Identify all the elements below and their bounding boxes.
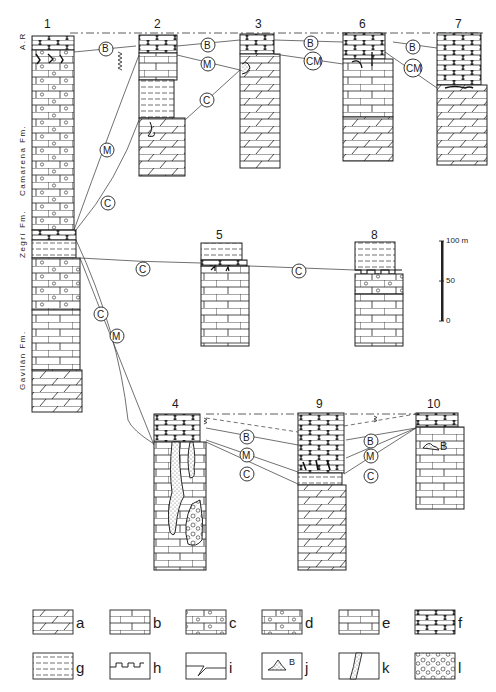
- marker-c: C: [97, 309, 104, 321]
- column-2: [139, 35, 185, 176]
- legend-j-inset-b: B: [289, 656, 295, 668]
- column-9: [298, 413, 346, 570]
- scale-bar: [439, 241, 444, 321]
- facies-change-symbol: [204, 418, 207, 424]
- column-7: [437, 33, 487, 165]
- column-1: [32, 36, 82, 412]
- column-label-1: 1: [44, 18, 51, 30]
- marker-c: C: [367, 471, 374, 483]
- legend-key-a: a: [76, 615, 84, 630]
- marker-m: M: [366, 451, 374, 463]
- scale-label-50: 50: [446, 277, 455, 285]
- marker-c: C: [104, 198, 111, 210]
- column-4: [154, 414, 206, 570]
- facies-change-symbol: [118, 52, 122, 70]
- legend-key-e: e: [382, 615, 390, 630]
- marker-c: C: [295, 266, 302, 278]
- marker-b: B: [409, 42, 416, 54]
- legend-key-l: l: [458, 660, 461, 675]
- column-label-6: 6: [359, 18, 366, 30]
- marker-m: M: [203, 59, 211, 71]
- column-label-3: 3: [255, 18, 262, 30]
- marker-b: B: [204, 40, 211, 52]
- legend-swatches: [33, 610, 455, 679]
- marker-b: B: [102, 43, 109, 55]
- formation-label-gavilan: Gavilán Fm.: [18, 330, 27, 390]
- marker-cm: CM: [306, 56, 322, 68]
- scale-label-100: 100 m: [446, 237, 468, 245]
- formation-label-camarena: Camarena Fm.: [18, 125, 27, 196]
- legend-key-j: j: [305, 660, 308, 675]
- column-label-7: 7: [455, 18, 462, 30]
- column-label-2: 2: [154, 18, 161, 30]
- legend-key-i: i: [229, 660, 232, 675]
- column-label-9: 9: [316, 398, 323, 410]
- column-5: [201, 243, 249, 346]
- legend-key-b: b: [153, 615, 161, 630]
- marker-b: B: [367, 436, 374, 448]
- legend-key-h: h: [153, 660, 161, 675]
- legend-key-c: c: [229, 615, 237, 630]
- column-10: [416, 413, 464, 509]
- formation-label-zegri: Zegrí Fm.: [18, 210, 27, 258]
- scale-label-0: 0: [446, 317, 450, 325]
- legend-key-g: g: [76, 660, 84, 675]
- column-label-5: 5: [216, 229, 223, 241]
- column-label-10: 10: [427, 398, 440, 410]
- column-label-4: 4: [172, 398, 179, 410]
- legend-key-k: k: [382, 660, 390, 675]
- marker-c: C: [203, 95, 210, 107]
- marker-m: M: [103, 145, 111, 157]
- marker-b: B: [243, 432, 250, 444]
- column-8: [355, 242, 403, 346]
- marker-cm: CM: [406, 63, 422, 75]
- marker-b: B: [307, 38, 314, 50]
- stratigraphic-figure: 1 2 3 4 5 6 7 8 9 10 A.R Camarena Fm. Ze…: [0, 0, 496, 692]
- formation-label-ar: A.R: [18, 32, 27, 50]
- column-label-8: 8: [371, 229, 378, 241]
- legend-key-f: f: [458, 615, 462, 630]
- diagram-canvas: [0, 0, 496, 692]
- marker-c: C: [243, 469, 250, 481]
- marker-c: C: [139, 264, 146, 276]
- marker-m: M: [242, 450, 250, 462]
- marker-m: M: [112, 331, 120, 343]
- inline-annotation-b: B: [440, 440, 447, 452]
- legend-key-d: d: [305, 615, 313, 630]
